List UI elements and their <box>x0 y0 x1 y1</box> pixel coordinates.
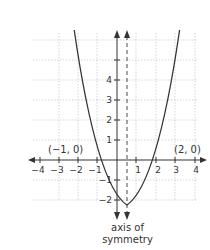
point-label-right: (2, 0) <box>174 144 201 155</box>
x-axis-left-arrow-icon <box>28 157 35 163</box>
svg-text:−1: −1 <box>99 175 112 185</box>
point-label-left: (−1, 0) <box>48 144 83 155</box>
y-axis-down-arrow-icon <box>114 212 120 220</box>
svg-text:−1: −1 <box>88 165 101 175</box>
x-tick-labels: −4 −3 −2 −1 1 2 3 4 <box>31 165 199 175</box>
svg-text:1: 1 <box>106 135 112 145</box>
svg-text:1: 1 <box>135 165 141 175</box>
parabola-graph: −4 −3 −2 −1 1 2 3 4 4 3 2 1 −1 −2 (−1, 0… <box>0 0 210 250</box>
svg-text:3: 3 <box>106 95 112 105</box>
symmetry-down-arrow-icon <box>124 212 130 220</box>
svg-text:−2: −2 <box>69 165 82 175</box>
svg-text:2: 2 <box>106 115 112 125</box>
svg-text:−3: −3 <box>50 165 63 175</box>
svg-text:3: 3 <box>173 165 179 175</box>
caption-line-2: symmetry <box>0 234 210 246</box>
x-axis-right-arrow-icon <box>200 157 207 163</box>
caption-line-1: axis of <box>0 222 210 234</box>
svg-text:−4: −4 <box>31 165 45 175</box>
svg-text:2: 2 <box>155 165 161 175</box>
axis-of-symmetry <box>124 30 130 220</box>
svg-text:−2: −2 <box>99 195 112 205</box>
axis-of-symmetry-caption: axis of symmetry <box>0 222 210 246</box>
symmetry-up-arrow-icon <box>124 30 130 38</box>
svg-text:4: 4 <box>193 165 199 175</box>
y-axis-up-arrow-icon <box>114 30 120 38</box>
svg-text:4: 4 <box>106 75 112 85</box>
y-tick-labels: 4 3 2 1 −1 −2 <box>99 75 113 205</box>
